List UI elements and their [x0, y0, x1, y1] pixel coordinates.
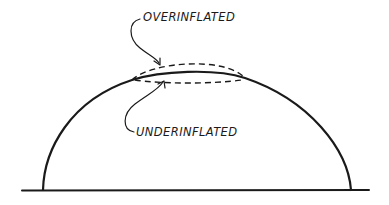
underinflated-profile: [135, 80, 242, 83]
underinflated-label: UNDERINFLATED: [136, 127, 238, 139]
dome-inflation-diagram: [0, 0, 389, 205]
ground-line: [22, 190, 369, 191]
overinflated-label: OVERINFLATED: [143, 12, 235, 24]
overinflated-leader: [131, 19, 159, 63]
